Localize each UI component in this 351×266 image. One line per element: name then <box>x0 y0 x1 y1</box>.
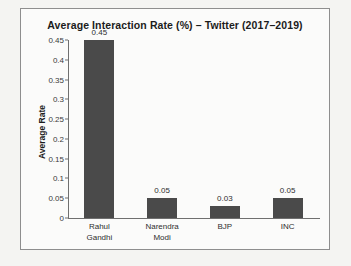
y-axis-title: Average Rate <box>37 92 47 172</box>
y-axis-tick-label: 0.1 <box>53 174 64 183</box>
bar-value-label: 0.03 <box>217 194 233 203</box>
plot-area: 00.050.10.150.20.250.30.350.40.450.450.0… <box>68 40 319 218</box>
category-label-line: INC <box>256 222 319 233</box>
x-axis-category-label: NarendraModi <box>131 222 194 243</box>
bar-value-label: 0.05 <box>154 186 170 195</box>
chart-figure: Average Interaction Rate (%) – Twitter (… <box>20 8 330 250</box>
bar-group: 0.05 <box>256 40 319 218</box>
bar[interactable] <box>84 40 114 218</box>
x-axis-line <box>68 218 320 219</box>
x-axis-category-label: BJP <box>194 222 257 233</box>
y-axis-tick-label: 0.4 <box>53 55 64 64</box>
y-axis-tick-label: 0.35 <box>48 75 64 84</box>
bar-group: 0.45 <box>68 40 131 218</box>
bar-value-label: 0.05 <box>280 186 296 195</box>
category-label-line: Narendra <box>131 222 194 233</box>
y-axis-tick-label: 0.05 <box>48 194 64 203</box>
bar[interactable] <box>147 198 177 218</box>
y-axis-tick-label: 0.15 <box>48 154 64 163</box>
y-axis-tick-label: 0.45 <box>48 36 64 45</box>
bar-group: 0.05 <box>131 40 194 218</box>
bar[interactable] <box>273 198 303 218</box>
bar[interactable] <box>210 206 240 218</box>
category-label-line: BJP <box>194 222 257 233</box>
y-axis-tick-label: 0.3 <box>53 95 64 104</box>
chart-title: Average Interaction Rate (%) – Twitter (… <box>21 19 329 31</box>
y-axis-tick-label: 0.2 <box>53 134 64 143</box>
bar-group: 0.03 <box>194 40 257 218</box>
category-label-line: Gandhi <box>68 233 131 244</box>
x-axis-category-label: RahulGandhi <box>68 222 131 243</box>
x-axis-category-label: INC <box>256 222 319 233</box>
category-label-line: Modi <box>131 233 194 244</box>
y-axis-tick-label: 0.25 <box>48 115 64 124</box>
bar-value-label: 0.45 <box>92 28 108 37</box>
category-label-line: Rahul <box>68 222 131 233</box>
y-axis-tick-label: 0 <box>60 214 64 223</box>
